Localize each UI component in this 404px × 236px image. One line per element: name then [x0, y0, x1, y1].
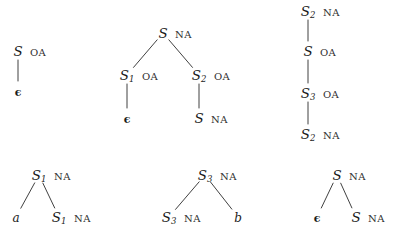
- tree-node-nonterminal: S: [158, 25, 167, 41]
- node-symbol: S: [301, 85, 310, 101]
- node-symbol: S: [301, 3, 310, 19]
- tree-node-nonterminal: S: [332, 167, 341, 183]
- tree-edge: [21, 183, 35, 208]
- tree-edge: [43, 183, 55, 208]
- node-symbol: S: [162, 209, 171, 225]
- node-symbol: S: [194, 110, 203, 126]
- node-feature-label: NA: [74, 213, 91, 224]
- node-subscript: 3: [171, 216, 176, 226]
- tree-node-epsilon: ϵ: [15, 83, 22, 99]
- tree-node-nonterminal: S1: [120, 67, 135, 84]
- node-symbol: S: [192, 67, 201, 83]
- node-symbol: S: [332, 167, 341, 183]
- node-feature-label: NA: [184, 213, 201, 224]
- node-feature-label: NA: [220, 171, 237, 182]
- node-feature-label: OA: [320, 47, 336, 58]
- node-symbol: S: [301, 126, 310, 142]
- node-feature-label: NA: [211, 114, 228, 125]
- tree-edge: [341, 183, 352, 208]
- node-symbol: a: [12, 211, 19, 225]
- tree-node-nonterminal: S1: [52, 209, 67, 226]
- tree-edge: [176, 182, 200, 210]
- node-feature-label: OA: [30, 47, 46, 58]
- node-subscript: 2: [201, 74, 206, 84]
- node-symbol: S: [120, 67, 129, 83]
- node-feature-label: NA: [368, 213, 385, 224]
- node-subscript: 1: [129, 74, 134, 84]
- tree-node-terminal: b: [234, 209, 242, 225]
- node-feature-label: NA: [323, 7, 340, 18]
- node-symbol: ϵ: [15, 86, 22, 99]
- node-symbol: S: [351, 209, 360, 225]
- node-feature-label: OA: [214, 71, 230, 82]
- node-subscript: 2: [310, 133, 315, 143]
- tree-edge: [134, 40, 158, 68]
- tree-node-epsilon: ϵ: [124, 110, 131, 126]
- tree-edge: [321, 183, 333, 208]
- tree-node-nonterminal: S: [194, 110, 203, 126]
- tree-node-nonterminal: S2: [192, 67, 207, 84]
- node-feature-label: NA: [175, 29, 192, 40]
- node-symbol: S: [13, 43, 22, 59]
- node-symbol: S: [52, 209, 61, 225]
- tree-node-nonterminal: S: [13, 43, 22, 59]
- tree-node-nonterminal: S2: [301, 3, 316, 20]
- node-feature-label: NA: [349, 171, 366, 182]
- tree-node-nonterminal: S3: [198, 167, 213, 184]
- node-symbol: ϵ: [124, 113, 131, 126]
- tree-node-nonterminal: S: [303, 43, 312, 59]
- tree-node-nonterminal: S3: [162, 209, 177, 226]
- node-symbol: ϵ: [314, 212, 321, 225]
- node-subscript: 1: [61, 216, 66, 226]
- node-subscript: 2: [310, 10, 315, 20]
- tree-node-nonterminal: S2: [301, 126, 316, 143]
- tree-node-nonterminal: S: [351, 209, 360, 225]
- node-feature-label: OA: [142, 71, 158, 82]
- node-feature-label: OA: [323, 89, 339, 100]
- node-symbol: S: [158, 25, 167, 41]
- node-symbol: b: [234, 211, 242, 225]
- node-symbol: S: [198, 167, 207, 183]
- tree-node-terminal: a: [12, 209, 19, 225]
- node-feature-label: NA: [323, 130, 340, 141]
- tree-node-nonterminal: S1: [32, 167, 47, 184]
- derivation-trees-figure: SOAϵSNAS1OAS2OAϵSNAS2NASOAS3OAS2NAS1NAaS…: [0, 0, 404, 236]
- node-symbol: S: [32, 167, 41, 183]
- tree-node-epsilon: ϵ: [314, 209, 321, 225]
- tree-edge: [211, 182, 232, 209]
- node-symbol: S: [303, 43, 312, 59]
- node-subscript: 1: [41, 174, 46, 184]
- node-feature-label: NA: [54, 171, 71, 182]
- node-subscript: 3: [207, 174, 212, 184]
- node-subscript: 3: [310, 92, 315, 102]
- tree-edge: [169, 40, 193, 68]
- tree-node-nonterminal: S3: [301, 85, 316, 102]
